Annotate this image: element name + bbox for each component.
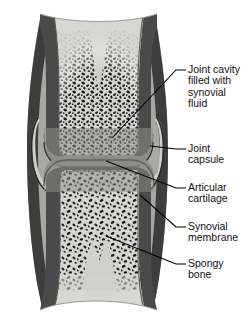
label-articular-cartilage: Articular cartilage: [188, 182, 228, 205]
label-joint-cavity: Joint cavity filled with synovial fluid: [188, 64, 240, 110]
label-spongy-bone: Spongy bone: [188, 258, 224, 281]
label-joint-capsule: Joint capsule: [188, 143, 224, 166]
label-synovial-membrane: Synovial membrane: [188, 221, 238, 244]
bone-top-edge: [40, 0, 157, 22]
